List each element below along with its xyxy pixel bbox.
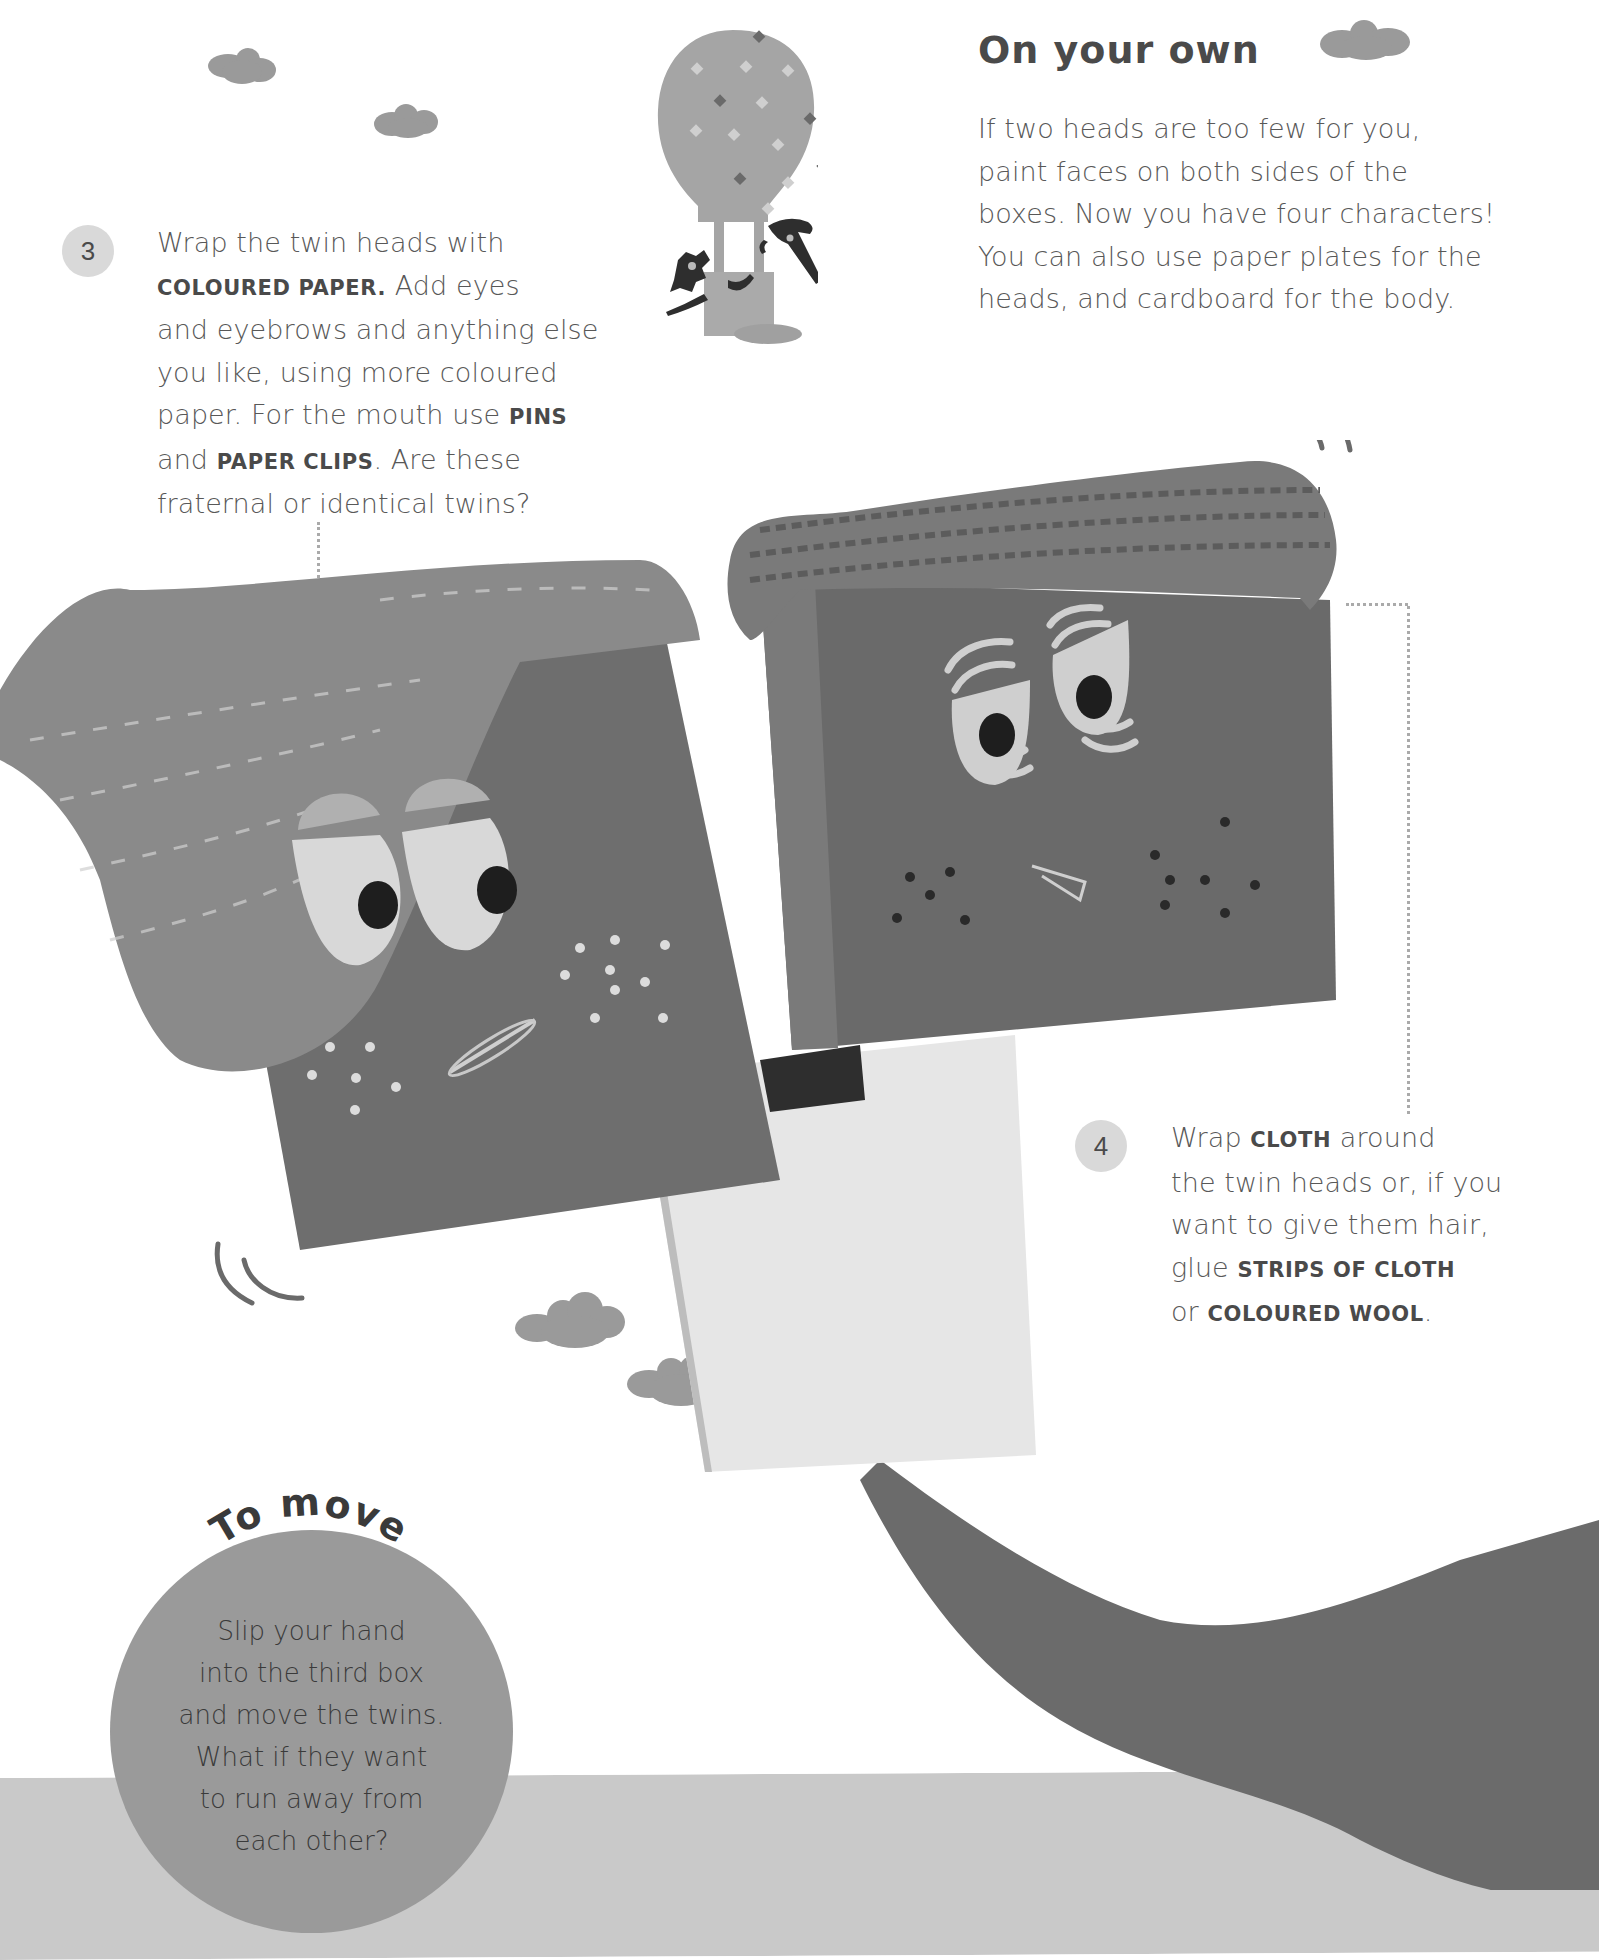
cloud-icon bbox=[1318, 18, 1414, 64]
step-4-text: Wrap CLOTH around the twin heads or, if … bbox=[1171, 1117, 1591, 1336]
cloud-icon bbox=[372, 100, 442, 140]
on-your-own-heading: On your own bbox=[978, 28, 1260, 72]
to-move-heading: To move bbox=[200, 1468, 420, 1562]
hot-air-balloon-illustration bbox=[648, 26, 818, 350]
svg-text:To move: To move bbox=[203, 1480, 417, 1553]
step-4-badge: 4 bbox=[1075, 1120, 1127, 1172]
to-move-text: Slip your hand into the third box and mo… bbox=[110, 1610, 513, 1862]
step-3-badge: 3 bbox=[62, 225, 114, 277]
cloud-icon bbox=[206, 46, 282, 86]
on-your-own-text: If two heads are too few for you, paint … bbox=[978, 108, 1518, 321]
